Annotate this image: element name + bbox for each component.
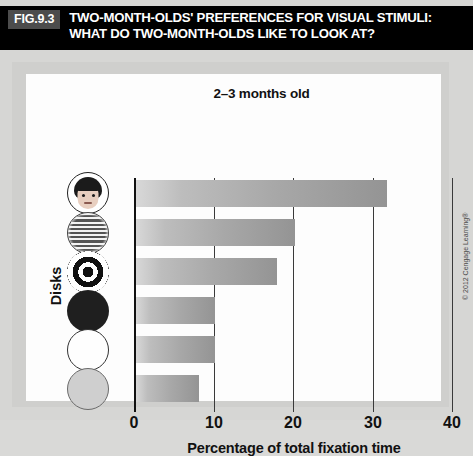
gridline-30 [373,178,374,412]
newsprint-disk-icon [67,212,109,254]
y-axis-title: Disks [48,267,64,306]
bar-white-disk [136,336,215,363]
x-tick-label-30: 30 [364,414,382,432]
figure-number-badge: FIG.9.3 [8,10,60,29]
chart-plot-area: 2–3 months old [26,74,441,401]
bar-gray-disk [136,375,199,402]
chart-title: 2–3 months old [134,86,389,101]
figure-header: FIG.9.3 TWO-MONTH-OLDS' PREFERENCES FOR … [0,6,473,50]
copyright-notice: © 2012 Cengage Learning® [462,213,469,300]
black-disk-icon [67,290,109,332]
figure-title: TWO-MONTH-OLDS' PREFERENCES FOR VISUAL S… [69,10,465,41]
gridline-20 [293,178,294,412]
bar-newsprint-disk [136,219,295,246]
x-axis-title: Percentage of total fixation time [134,440,454,456]
bar-bullseye-disk [136,258,277,285]
bar-face-disk [136,180,387,207]
x-tick-label-40: 40 [443,414,461,432]
x-tick-label-0: 0 [130,414,139,432]
gridline-10 [214,178,215,412]
gray-disk-icon [67,368,109,410]
bar-black-disk [136,297,215,324]
x-tick-label-10: 10 [205,414,223,432]
gridline-40 [452,178,453,412]
face-disk-icon [67,172,109,214]
x-tick-label-20: 20 [284,414,302,432]
chart-card: 2–3 months old [12,62,449,407]
bullseye-disk-icon [67,251,109,293]
white-disk-icon [67,329,109,371]
